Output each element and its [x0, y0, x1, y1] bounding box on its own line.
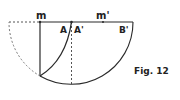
point-m [39, 21, 41, 23]
figure-caption: Fig. 12 [134, 66, 169, 76]
label-m-prime: m' [96, 10, 109, 21]
point-a [70, 21, 73, 24]
point-m-prime [102, 21, 104, 23]
label-b-prime: B' [119, 25, 129, 35]
label-m: m [36, 10, 46, 21]
dashed-arc [9, 22, 40, 76]
figure-diagram: m m' A A' B' Fig. 12 [0, 0, 180, 100]
label-a: A [60, 25, 67, 35]
label-a-prime: A' [74, 25, 84, 35]
